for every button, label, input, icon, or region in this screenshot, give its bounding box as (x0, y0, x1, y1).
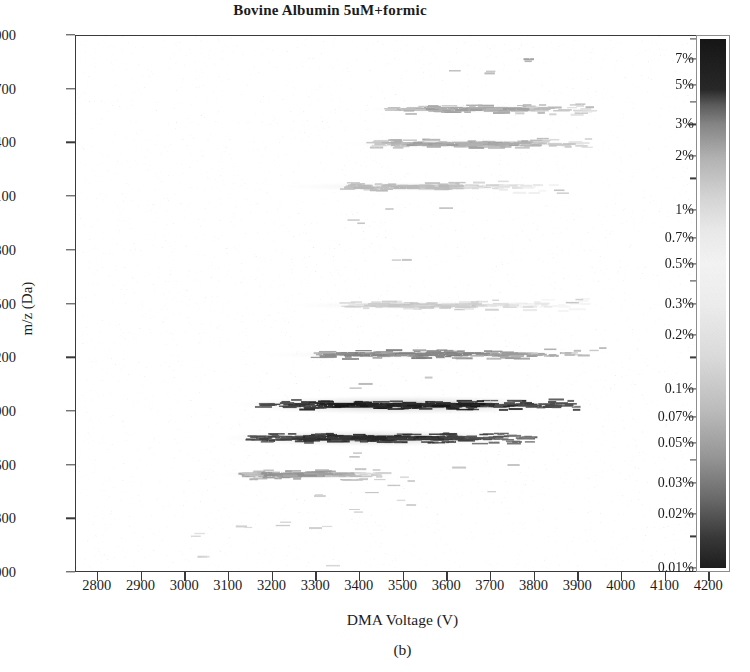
colorbar-tick-label: 5% (584, 78, 694, 92)
colorbar-tick-label: 0.05% (584, 436, 694, 450)
y-tick-mark (66, 195, 75, 196)
colorbar-tick-label: 0.01% (584, 561, 694, 575)
colorbar-tick-label: 7% (584, 52, 694, 66)
colorbar-minor-tick-mark (690, 357, 696, 358)
colorbar-tick-mark (688, 303, 696, 304)
colorbar-tick-label: 1% (584, 203, 694, 217)
colorbar-minor-tick-mark (690, 178, 696, 179)
colorbar-tick-label: 0.5% (584, 257, 694, 271)
colorbar-tick-mark (688, 334, 696, 335)
subfigure-caption: (b) (75, 641, 730, 659)
y-tick-mark (66, 356, 75, 357)
colorbar-tick-mark (688, 263, 696, 264)
colorbar-tick-mark (688, 84, 696, 85)
x-tick-mark (228, 572, 229, 581)
colorbar-tick-mark (688, 155, 696, 156)
colorbar-tick-mark (688, 124, 696, 125)
y-tick-mark (66, 142, 75, 143)
x-tick-mark (708, 572, 709, 581)
colorbar-gradient (700, 39, 726, 568)
x-tick-mark (403, 572, 404, 581)
y-tick-label: 3600 (0, 457, 16, 472)
colorbar-tick-mark (688, 209, 696, 210)
colorbar-tick-mark (688, 482, 696, 483)
y-tick-mark (66, 410, 75, 411)
y-tick-label: 5700 (0, 81, 16, 96)
x-tick-mark (446, 572, 447, 581)
colorbar-tick-mark (688, 416, 696, 417)
y-tick-label: 6000 (0, 28, 16, 43)
colorbar: 7%5%3%2%1%0.7%0.5%0.3%0.2%0.1%0.07%0.05%… (640, 35, 736, 572)
colorbar-tick-mark (688, 567, 696, 568)
y-tick-label: 4200 (0, 350, 16, 365)
x-tick-mark (97, 572, 98, 581)
x-tick-mark (359, 572, 360, 581)
colorbar-tick-label: 0.1% (584, 382, 694, 396)
colorbar-tick-mark (688, 442, 696, 443)
y-axis-label: m/z (Da) (19, 249, 36, 369)
y-tick-label: 5100 (0, 189, 16, 204)
y-tick-mark (66, 249, 75, 250)
x-tick-mark (184, 572, 185, 581)
colorbar-tick-mark (688, 58, 696, 59)
x-tick-mark (272, 572, 273, 581)
y-tick-label: 4500 (0, 296, 16, 311)
y-tick-label: 3900 (0, 404, 16, 419)
colorbar-tick-label: 0.02% (584, 507, 694, 521)
colorbar-minor-tick-mark (690, 101, 696, 102)
x-axis-label: DMA Voltage (V) (75, 611, 730, 629)
y-tick-label: 3000 (0, 565, 16, 580)
y-tick-label: 4800 (0, 243, 16, 258)
page-title: Bovine Albumin 5uM+formic (0, 2, 660, 19)
colorbar-tick-mark (688, 514, 696, 515)
figure-container: Bovine Albumin 5uM+formic 30003300360039… (0, 0, 750, 672)
y-tick-label: 5400 (0, 135, 16, 150)
colorbar-tick-label: 0.7% (584, 231, 694, 245)
colorbar-minor-tick-mark (690, 281, 696, 282)
colorbar-tick-label: 3% (584, 117, 694, 131)
colorbar-tick-mark (688, 237, 696, 238)
y-tick-mark (66, 464, 75, 465)
y-tick-mark (66, 88, 75, 89)
colorbar-tick-mark (688, 388, 696, 389)
y-tick-mark (66, 518, 75, 519)
y-tick-mark (66, 571, 75, 572)
colorbar-tick-label: 0.03% (584, 476, 694, 490)
y-tick-mark (66, 34, 75, 35)
colorbar-tick-label: 0.2% (584, 328, 694, 342)
colorbar-tick-label: 0.3% (584, 297, 694, 311)
y-tick-mark (66, 303, 75, 304)
y-tick-label: 3300 (0, 511, 16, 526)
x-tick-mark (141, 572, 142, 581)
x-tick-mark (315, 572, 316, 581)
colorbar-minor-tick-mark (690, 536, 696, 537)
x-tick-mark (534, 572, 535, 581)
x-tick-mark (577, 572, 578, 581)
colorbar-tick-label: 0.07% (584, 410, 694, 424)
colorbar-minor-tick-mark (690, 460, 696, 461)
colorbar-tick-label: 2% (584, 149, 694, 163)
colorbar-minor-tick-mark (690, 38, 696, 39)
x-tick-mark (490, 572, 491, 581)
